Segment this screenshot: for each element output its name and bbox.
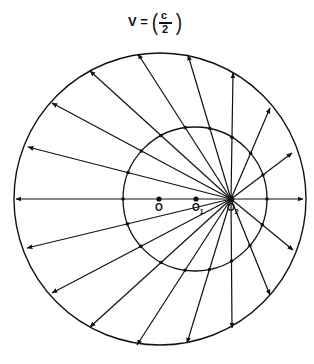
intersection-dot	[140, 149, 144, 153]
intersection-dot	[183, 126, 187, 130]
intersection-dot	[261, 173, 265, 177]
intersection-dot	[139, 245, 143, 249]
point-o	[156, 196, 161, 201]
label-o: O	[155, 202, 163, 213]
intersection-dot	[230, 259, 234, 263]
ray-arrow	[231, 199, 232, 328]
intersection-dot	[208, 127, 212, 131]
intersection-dot	[126, 171, 130, 175]
label-o1: O1	[192, 202, 204, 215]
intersection-dot	[249, 151, 253, 155]
intersection-dot	[260, 223, 264, 227]
intersection-dot	[248, 244, 252, 248]
intersection-dot	[159, 134, 163, 138]
wavefront-diagram: OO1O2	[0, 0, 314, 364]
point-o1	[193, 196, 198, 201]
intersection-dot	[265, 197, 269, 201]
intersection-dot	[208, 268, 212, 272]
intersection-dot	[126, 222, 130, 226]
intersection-dot	[121, 197, 125, 201]
intersection-dot	[183, 269, 187, 273]
intersection-dot	[230, 135, 234, 139]
intersection-dot	[159, 261, 163, 265]
